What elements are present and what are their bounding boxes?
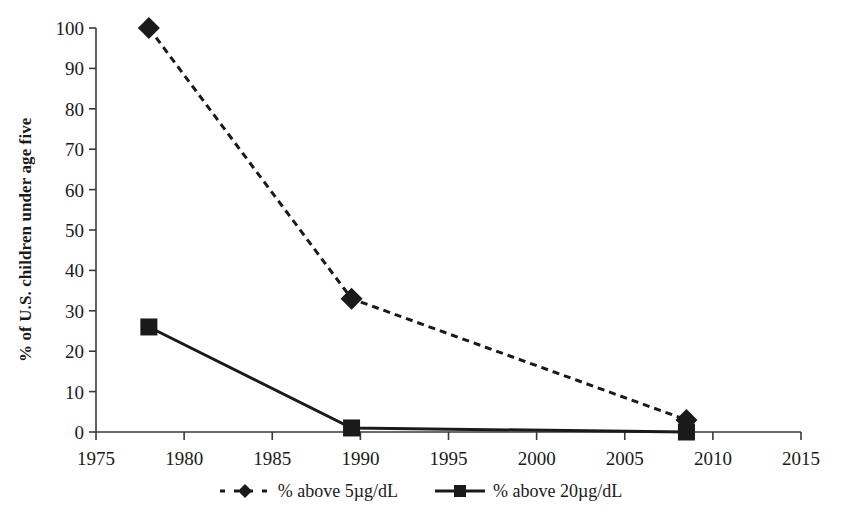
data-point-1-2 [341, 288, 363, 310]
diamond-marker-icon [219, 483, 271, 499]
legend-entry[interactable]: % above 5µg/dL [219, 482, 398, 500]
data-point-2-1 [140, 318, 157, 335]
series-line-2 [149, 327, 687, 432]
data-point-1-1 [138, 17, 160, 39]
chart-figure: % of U.S. children under age five 010203… [0, 0, 841, 524]
square-marker-icon [434, 483, 486, 499]
data-point-2-2 [343, 419, 360, 436]
legend-label: % above 20µg/dL [493, 482, 622, 500]
data-point-2-3 [678, 424, 695, 441]
series-line-1 [149, 28, 687, 420]
plot-area [0, 0, 841, 524]
legend-entry[interactable]: % above 20µg/dL [434, 482, 622, 500]
legend-label: % above 5µg/dL [278, 482, 398, 500]
chart-legend: % above 5µg/dL% above 20µg/dL [0, 482, 841, 500]
